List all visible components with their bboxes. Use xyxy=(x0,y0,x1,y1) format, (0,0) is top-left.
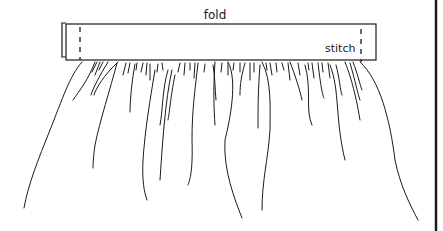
stitch-lines xyxy=(80,27,361,62)
gathering-diagram: fold stitch xyxy=(0,0,443,231)
stitch-label: stitch xyxy=(325,42,355,55)
fold-label: fold xyxy=(204,8,227,22)
gathered-fabric xyxy=(24,62,418,220)
